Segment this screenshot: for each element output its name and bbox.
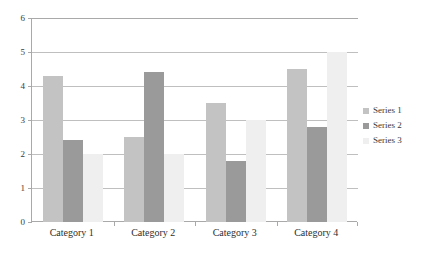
legend-item[interactable]: Series 1 [363, 103, 423, 118]
x-axis-tick-mark [195, 222, 196, 226]
legend-swatch-icon [363, 108, 369, 114]
legend-item[interactable]: Series 3 [363, 133, 423, 148]
bar-chart: 0123456 Category 1Category 2Category 3Ca… [0, 0, 425, 259]
bar-groups [32, 18, 358, 222]
bar[interactable] [83, 154, 103, 222]
bar[interactable] [164, 154, 184, 222]
x-axis-category-label: Category 4 [276, 228, 358, 238]
y-axis-tick-label: 0 [21, 218, 26, 227]
y-axis-tick-label: 3 [21, 116, 26, 125]
legend-label: Series 1 [373, 106, 402, 115]
legend-item[interactable]: Series 2 [363, 118, 423, 133]
y-axis-tick-label: 4 [21, 82, 26, 91]
x-axis-tick-mark [114, 222, 115, 226]
y-axis-tick-label: 6 [21, 14, 26, 23]
y-axis-tick-label: 5 [21, 48, 26, 57]
bar[interactable] [226, 161, 246, 222]
bar[interactable] [287, 69, 307, 222]
bar[interactable] [124, 137, 144, 222]
bar[interactable] [206, 103, 226, 222]
x-axis-category-labels: Category 1Category 2Category 3Category 4 [31, 228, 357, 238]
bar[interactable] [144, 72, 164, 222]
y-axis-tick-label: 1 [21, 184, 26, 193]
legend-label: Series 2 [373, 121, 402, 130]
bar[interactable] [327, 52, 347, 222]
legend-swatch-icon [363, 138, 369, 144]
x-axis-category-label: Category 2 [113, 228, 195, 238]
x-axis-category-label: Category 1 [31, 228, 113, 238]
bar[interactable] [307, 127, 327, 222]
bar-group [32, 18, 114, 222]
x-axis-tick-mark [277, 222, 278, 226]
bar[interactable] [246, 120, 266, 222]
bar-group [277, 18, 359, 222]
x-axis-category-label: Category 3 [194, 228, 276, 238]
bar[interactable] [63, 140, 83, 222]
x-axis-tick-mark [357, 222, 358, 226]
legend: Series 1Series 2Series 3 [363, 103, 423, 148]
bar-group [114, 18, 196, 222]
legend-swatch-icon [363, 123, 369, 129]
legend-label: Series 3 [373, 136, 402, 145]
bar-group [195, 18, 277, 222]
y-axis-tick-label: 2 [21, 150, 26, 159]
bar[interactable] [43, 76, 63, 222]
plot-area: 0123456 [31, 18, 357, 222]
y-axis-tick-mark [28, 222, 32, 223]
